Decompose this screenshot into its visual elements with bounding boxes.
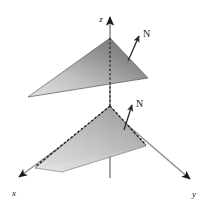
upper-triangle-surface	[28, 38, 148, 97]
figure-container: z x y N	[0, 0, 206, 202]
normal-vector-lower-label: N	[136, 98, 143, 109]
lower-triangle-front-face	[35, 106, 146, 172]
normal-vector-upper-label: N	[143, 28, 150, 39]
upper-triangle	[28, 38, 148, 97]
z-axis-label: z	[98, 14, 103, 24]
three-dimensional-plane-diagram: z x y N	[0, 0, 206, 202]
normal-vector-upper-arrow	[128, 36, 139, 61]
lower-triangle	[35, 106, 146, 172]
y-axis-label: y	[191, 189, 196, 199]
x-axis-label: x	[11, 188, 16, 198]
normal-vector-upper: N	[128, 28, 150, 61]
